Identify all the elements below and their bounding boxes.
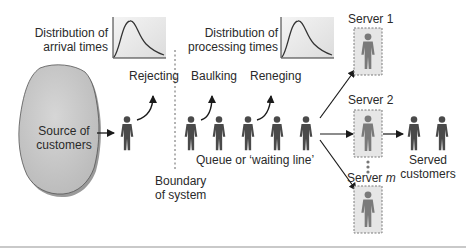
- server-2-box: [354, 110, 382, 157]
- baulking-arrow: [201, 96, 212, 120]
- rejecting-arrow: [137, 96, 153, 120]
- server-1-box: [354, 28, 382, 75]
- queue-customer-icon: [213, 116, 226, 150]
- rejecting-label: Rejecting: [129, 69, 179, 83]
- arriving-customer-icon: [121, 116, 134, 150]
- served-customers: [408, 116, 449, 150]
- served-customer-icon: [408, 116, 421, 150]
- bottom-divider: [0, 246, 466, 248]
- boundary-label: Boundary of system: [155, 174, 206, 202]
- reneging-arrow: [257, 96, 271, 120]
- queue-customer-icon: [300, 116, 313, 150]
- served-customer-icon: [436, 116, 449, 150]
- queue-customer-icon: [242, 116, 255, 150]
- arrival-distribution-label: Distribution of arrival times: [18, 26, 108, 54]
- source-label: Source of customers: [28, 124, 100, 152]
- served-customers-label: Served customers: [400, 153, 456, 181]
- queue-label: Queue or ‘waiting line’: [196, 153, 314, 167]
- queue-customer-icon: [185, 116, 198, 150]
- arrival-distribution-chart: [113, 17, 166, 58]
- server-2-label: Server 2: [348, 93, 393, 107]
- reneging-label: Reneging: [250, 69, 301, 83]
- queue-customer-icon: [271, 116, 284, 150]
- server-1-label: Server 1: [348, 12, 393, 26]
- queue-customers: [185, 116, 313, 150]
- server-m-box: [354, 186, 382, 233]
- processing-distribution-chart: [281, 17, 334, 58]
- baulking-label: Baulking: [191, 69, 237, 83]
- processing-distribution-label: Distribution of processing times: [178, 26, 278, 54]
- server-m-label: Server m: [347, 171, 396, 185]
